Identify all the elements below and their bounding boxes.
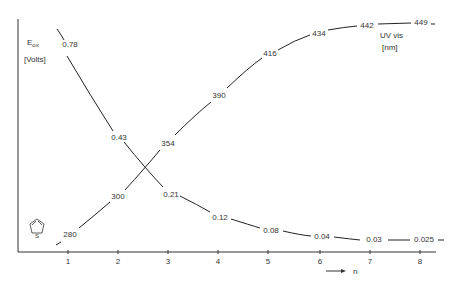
x-tick-labels: 1 2 3 4 5 6 7 8 — [66, 257, 423, 266]
data-label: 280 — [63, 230, 77, 239]
data-label: 449 — [414, 18, 428, 27]
data-label: 0.08 — [263, 226, 279, 235]
data-label: 300 — [111, 192, 125, 201]
thiophene-icon — [30, 219, 44, 233]
data-label: 0.21 — [163, 190, 179, 199]
x-tick-label: 8 — [418, 257, 423, 266]
data-label: 390 — [212, 91, 226, 100]
x-tick-label: 5 — [266, 257, 271, 266]
uv-axis-title: UV vis — [380, 31, 403, 40]
x-tick-label: 6 — [318, 257, 323, 266]
x-tick-label: 3 — [166, 257, 171, 266]
x-axis-label: n — [353, 267, 357, 276]
arrow-right-icon — [341, 269, 346, 273]
data-label: 0.78 — [62, 40, 78, 49]
uv-labels: 280 300 354 390 416 434 442 449 — [63, 18, 428, 239]
data-label: 0.12 — [212, 213, 228, 222]
data-label: 434 — [312, 29, 326, 38]
sulfur-label: S — [35, 233, 39, 239]
data-label: 0.43 — [111, 133, 127, 142]
x-tick-label: 2 — [116, 257, 121, 266]
eox-labels: 0.78 0.43 0.21 0.12 0.08 0.04 0.03 0.025 — [62, 40, 434, 244]
x-tick-label: 4 — [216, 257, 221, 266]
x-tick-label: 1 — [66, 257, 71, 266]
data-label: 0.03 — [366, 235, 382, 244]
eox-axis-title: Eox — [27, 38, 39, 48]
eox-axis-unit: [Volts] — [24, 55, 46, 64]
uv-axis-unit: [nm] — [382, 43, 398, 52]
chart: 1 2 3 4 5 6 7 8 n Eox [Volts] UV vis [nm… — [0, 0, 464, 281]
x-tick-label: 7 — [368, 257, 373, 266]
data-label: 416 — [263, 49, 277, 58]
data-label: 0.025 — [414, 235, 435, 244]
data-label: 442 — [360, 21, 374, 30]
data-label: 354 — [161, 139, 175, 148]
data-label: 0.04 — [314, 232, 330, 241]
